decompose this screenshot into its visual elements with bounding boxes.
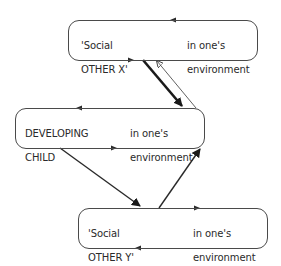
- node-context: in one's environment: [193, 216, 256, 264]
- node-developing-child: DEVELOPING CHILD in one's environment: [15, 108, 205, 149]
- node-social-other-y: 'Social OTHER Y' in one's environment: [78, 208, 268, 249]
- node-context: in one's environment: [187, 28, 250, 76]
- title-line-2: OTHER Y': [88, 252, 134, 263]
- title-line-1: 'Social: [81, 40, 113, 51]
- context-line-1: in one's: [130, 128, 168, 139]
- node-context: in one's environment: [130, 116, 193, 164]
- node-social-other-x: 'Social OTHER X' in one's environment: [68, 20, 258, 61]
- context-line-1: in one's: [187, 40, 225, 51]
- context-line-2: environment: [193, 252, 256, 263]
- node-title: 'Social OTHER X': [81, 28, 128, 76]
- title-line-1: DEVELOPING: [25, 128, 88, 139]
- arrow-x-to-child: [143, 60, 182, 106]
- node-title: DEVELOPING CHILD: [25, 116, 88, 164]
- title-line-2: CHILD: [25, 152, 55, 163]
- title-line-1: 'Social: [88, 228, 120, 239]
- context-line-1: in one's: [193, 228, 231, 239]
- node-title: 'Social OTHER Y': [88, 216, 134, 264]
- title-line-2: OTHER X': [81, 64, 128, 75]
- context-line-2: environment: [187, 64, 250, 75]
- developmental-relationship-diagram: 'Social OTHER X' in one's environment DE…: [0, 0, 281, 266]
- context-line-2: environment: [130, 152, 193, 163]
